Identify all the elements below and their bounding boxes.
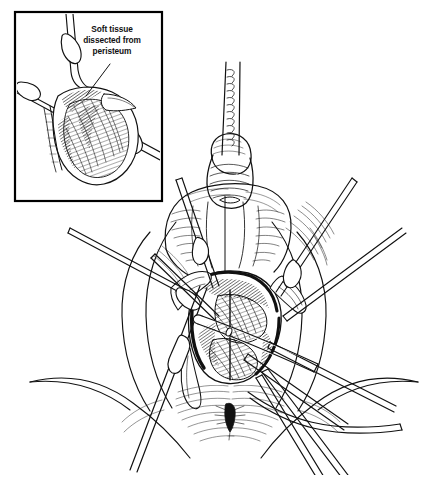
figure-root: Soft tissue dissected from peristeum (0, 0, 445, 489)
detail-inset: Soft tissue dissected from peristeum (15, 12, 162, 201)
inset-caption-line-1: Soft tissue (91, 24, 133, 34)
inset-caption-line-3: peristeum (93, 46, 132, 56)
inset-caption-line-2: dissected from (83, 35, 141, 45)
surgical-illustration-canvas: Soft tissue dissected from peristeum (0, 0, 445, 489)
